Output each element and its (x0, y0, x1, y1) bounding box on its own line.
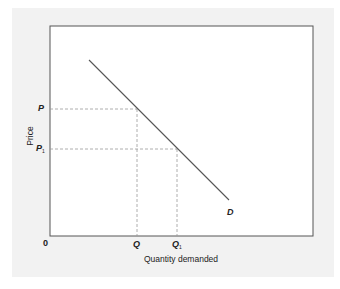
quantity-q-label: Q (133, 240, 140, 250)
demand-diagram (0, 0, 340, 289)
origin-label: 0 (43, 239, 48, 248)
price-p-label: P (38, 104, 44, 114)
y-axis-label: Price (25, 122, 35, 150)
quantity-q1-label: Q1 (172, 240, 182, 250)
x-axis-label: Quantity demanded (140, 254, 222, 264)
demand-curve-label: D (227, 208, 234, 217)
plot-frame (50, 26, 313, 236)
price-p1-label: P1 (36, 144, 45, 154)
